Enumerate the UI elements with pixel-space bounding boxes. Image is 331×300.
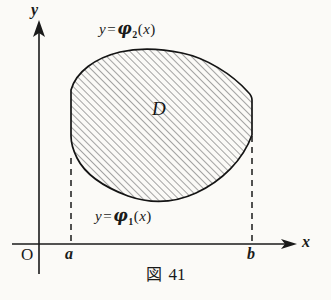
y-axis-label: y bbox=[31, 2, 38, 18]
region-d-label: D bbox=[152, 99, 166, 118]
origin-label: O bbox=[21, 246, 33, 263]
figure-41-container: y x O a b y=φ2(x) y=φ1(x) D 図41 bbox=[0, 0, 331, 300]
lower-curve-equation: y=φ1(x) bbox=[95, 208, 152, 227]
upper-eq-equals: = bbox=[106, 21, 117, 37]
lower-eq-equals: = bbox=[102, 208, 113, 224]
tick-label-b: b bbox=[247, 246, 255, 262]
figure-caption: 図41 bbox=[0, 266, 331, 283]
figure-drawing-canvas bbox=[0, 0, 331, 300]
tick-label-a: a bbox=[65, 246, 73, 262]
upper-eq-phi-symbol: φ bbox=[117, 19, 132, 38]
caption-symbol: 図 bbox=[146, 265, 162, 284]
x-axis-label: x bbox=[302, 234, 310, 250]
upper-curve-equation: y=φ2(x) bbox=[99, 21, 156, 40]
lower-eq-phi-symbol: φ bbox=[113, 206, 128, 225]
lower-eq-close-paren: ) bbox=[146, 208, 152, 224]
caption-number: 41 bbox=[169, 265, 186, 284]
upper-eq-close-paren: ) bbox=[150, 21, 156, 37]
